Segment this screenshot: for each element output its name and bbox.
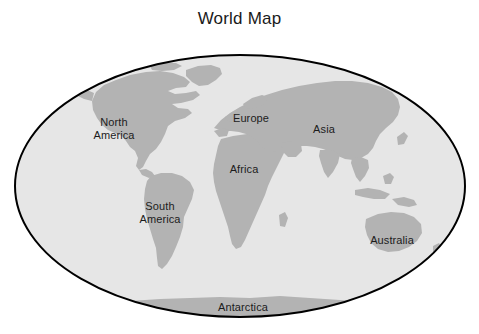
world-map-figure: World Map — [0, 0, 479, 334]
map-label-africa[interactable]: Africa — [230, 163, 259, 176]
map-label-australia[interactable]: Australia — [370, 234, 414, 247]
map-label-asia[interactable]: Asia — [313, 123, 335, 136]
map-label-europe[interactable]: Europe — [233, 112, 269, 125]
map-label-antarctica[interactable]: Antarctica — [218, 301, 268, 314]
map-label-north-america[interactable]: North America — [93, 116, 134, 141]
map-label-south-america[interactable]: South America — [139, 200, 180, 225]
